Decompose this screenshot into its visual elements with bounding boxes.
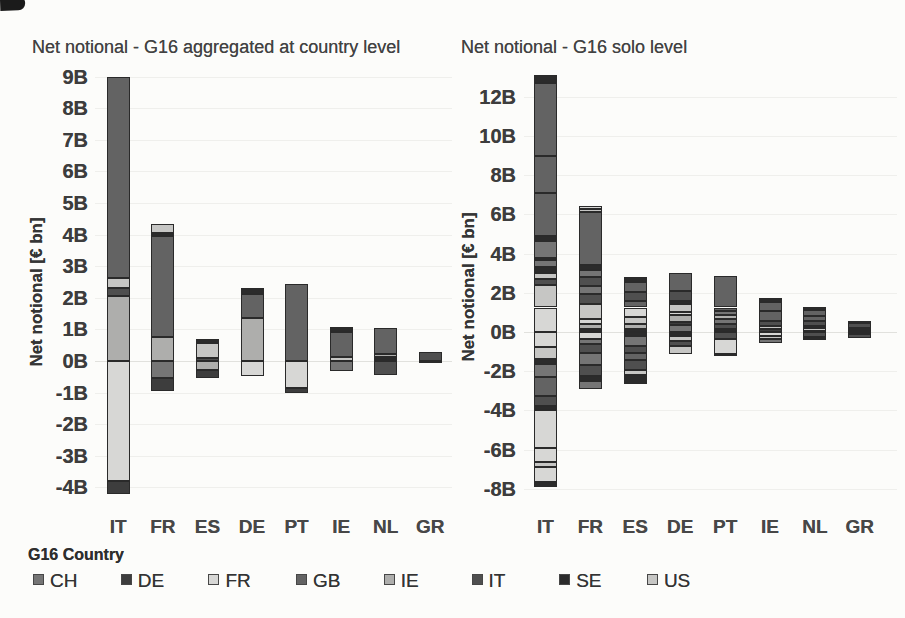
bar-segment-IT bbox=[848, 323, 871, 328]
bar-segment-FR bbox=[534, 448, 557, 463]
legend-label: FR bbox=[225, 571, 250, 591]
y-tick-label: -6B bbox=[464, 439, 516, 461]
bar-segment-CH bbox=[669, 325, 692, 332]
gridline bbox=[95, 235, 452, 236]
bar-segment-US bbox=[534, 273, 557, 279]
x-axis-label-IE: IE bbox=[747, 517, 793, 537]
x-axis-label-IE: IE bbox=[318, 517, 364, 537]
bar-segment-IT bbox=[374, 361, 397, 375]
y-tick-label: 4B bbox=[36, 224, 88, 246]
y-tick-label: 8B bbox=[36, 97, 88, 119]
bar-segment-IT bbox=[107, 288, 130, 296]
bar-segment-SE bbox=[579, 265, 602, 270]
bar-segment-CH bbox=[579, 286, 602, 294]
legend-swatch-IE bbox=[384, 574, 395, 585]
x-axis-label-ES: ES bbox=[184, 517, 230, 537]
legend-label: IE bbox=[401, 571, 419, 591]
bar-segment-SE bbox=[759, 298, 782, 302]
bar-segment-GB bbox=[714, 276, 737, 308]
bar-segment-DE bbox=[151, 378, 174, 391]
legend-label: DE bbox=[138, 571, 164, 591]
bar-segment-FR bbox=[374, 357, 397, 359]
bar-segment-IT bbox=[534, 279, 557, 285]
bar-segment-GB bbox=[534, 377, 557, 396]
bar-segment-IE bbox=[107, 296, 130, 361]
bar-segment-IE bbox=[241, 318, 264, 361]
y-tick-label: 0B bbox=[36, 350, 88, 372]
gridline bbox=[95, 298, 452, 299]
bar-segment-IT bbox=[419, 352, 442, 361]
bar-segment-FR bbox=[669, 312, 692, 315]
y-tick-label: 9B bbox=[36, 66, 88, 88]
bar-segment-IT bbox=[803, 321, 826, 326]
bar-segment-US bbox=[803, 328, 826, 331]
gridline bbox=[95, 361, 452, 362]
y-tick-label: 6B bbox=[464, 203, 516, 225]
bar-segment-GB bbox=[759, 311, 782, 321]
bar-segment-CH bbox=[624, 336, 647, 346]
legend-swatch-DE bbox=[121, 574, 132, 585]
bar-segment-FR bbox=[624, 308, 647, 318]
y-tick-label: 6B bbox=[36, 160, 88, 182]
bar-segment-IT bbox=[624, 360, 647, 370]
gridline bbox=[95, 203, 452, 204]
legend-swatch-GB bbox=[296, 574, 307, 585]
bar-segment-FR bbox=[534, 410, 557, 447]
bar-segment-IT bbox=[534, 258, 557, 261]
bar-segment-GB bbox=[374, 328, 397, 354]
y-tick-label: -8B bbox=[464, 478, 516, 500]
bar-segment-US bbox=[196, 343, 219, 358]
bar-segment-SE bbox=[534, 75, 557, 83]
bar-segment-GB bbox=[669, 273, 692, 291]
gridline bbox=[95, 266, 452, 267]
y-tick-label: 2B bbox=[464, 282, 516, 304]
bar-segment-SE bbox=[803, 307, 826, 310]
scan-artifact bbox=[0, 0, 25, 11]
bar-segment-IT bbox=[714, 324, 737, 329]
x-axis-label-GR: GR bbox=[837, 517, 883, 537]
gridline bbox=[524, 489, 897, 490]
bar-segment-US bbox=[669, 346, 692, 354]
gridline bbox=[95, 140, 452, 141]
bar-segment-CH bbox=[579, 270, 602, 277]
bar-segment-US bbox=[669, 304, 692, 313]
bar-segment-FR bbox=[534, 308, 557, 333]
bar-segment-US bbox=[534, 285, 557, 308]
bar-segment-CH bbox=[759, 339, 782, 343]
x-axis-label-IT: IT bbox=[95, 517, 141, 537]
bar-segment-FR bbox=[579, 332, 602, 339]
bar-segment-SE bbox=[714, 354, 737, 357]
x-axis-label-GR: GR bbox=[407, 517, 453, 537]
x-axis-label-DE: DE bbox=[229, 517, 275, 537]
legend-title: G16 Country bbox=[28, 546, 124, 564]
bar-segment-DE bbox=[196, 370, 219, 379]
chart-title-solo: Net notional - G16 solo level bbox=[461, 37, 687, 58]
scanned-chart-page: Net notional - G16 aggregated at country… bbox=[0, 0, 905, 618]
x-axis-label-IT: IT bbox=[523, 517, 569, 537]
bar-segment-GB bbox=[330, 332, 353, 357]
bar-segment-CH bbox=[714, 311, 737, 315]
bar-segment-FR bbox=[107, 361, 130, 481]
bar-segment-GB bbox=[107, 77, 130, 278]
bar-segment-GB bbox=[534, 156, 557, 193]
y-tick-label: 3B bbox=[36, 255, 88, 277]
y-tick-label: -4B bbox=[36, 476, 88, 498]
gridline bbox=[95, 393, 452, 394]
bar-segment-FR bbox=[579, 206, 602, 209]
bar-segment-IT bbox=[534, 396, 557, 406]
bar-segment-US bbox=[534, 347, 557, 359]
bar-segment-DE bbox=[107, 481, 130, 494]
bar-segment-SE bbox=[534, 482, 557, 487]
bar-segment-US bbox=[759, 326, 782, 329]
y-tick-label: -4B bbox=[464, 399, 516, 421]
y-tick-label: 1B bbox=[36, 318, 88, 340]
bar-segment-IT bbox=[848, 334, 871, 338]
gridline bbox=[95, 456, 452, 457]
bar-segment-FR bbox=[579, 319, 602, 324]
bar-segment-CH bbox=[534, 241, 557, 258]
x-axis-label-FR: FR bbox=[567, 517, 613, 537]
x-axis-label-FR: FR bbox=[140, 517, 186, 537]
bar-segment-SE bbox=[534, 267, 557, 273]
gridline bbox=[95, 77, 452, 78]
gridline bbox=[95, 108, 452, 109]
